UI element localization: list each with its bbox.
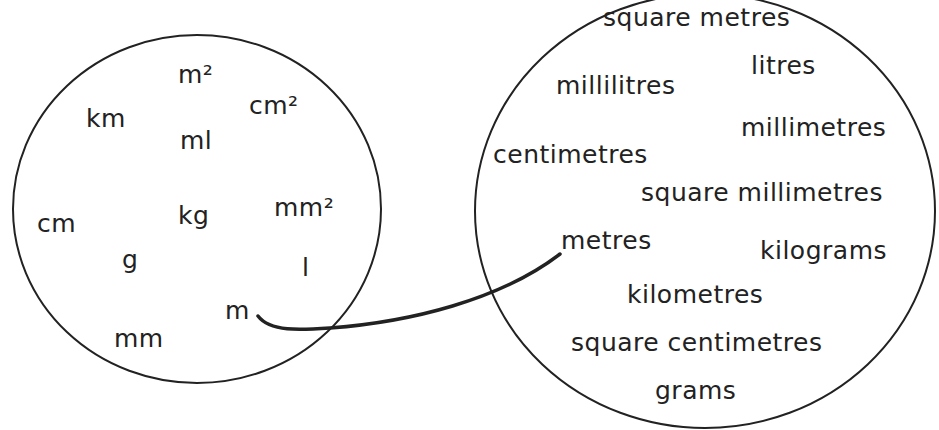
abbreviation-label[interactable]: ml <box>180 128 212 153</box>
unit-name-label[interactable]: kilograms <box>760 238 887 263</box>
abbreviation-label[interactable]: m <box>225 298 250 323</box>
abbreviation-label[interactable]: mm <box>114 326 164 351</box>
abbreviation-label[interactable]: cm² <box>249 93 299 118</box>
unit-name-label[interactable]: square centimetres <box>571 330 823 355</box>
abbreviation-label[interactable]: mm² <box>274 195 334 220</box>
unit-name-label[interactable]: square metres <box>603 5 790 30</box>
abbreviation-label[interactable]: l <box>302 255 309 280</box>
unit-names-set-circle <box>475 0 935 428</box>
abbreviation-label[interactable]: km <box>86 106 126 131</box>
unit-name-label[interactable]: metres <box>561 228 652 253</box>
unit-name-label[interactable]: millimetres <box>741 115 886 140</box>
unit-name-label[interactable]: litres <box>751 53 816 78</box>
unit-name-label[interactable]: square millimetres <box>641 180 883 205</box>
unit-name-label[interactable]: grams <box>655 378 736 403</box>
unit-name-label[interactable]: millilitres <box>556 73 675 98</box>
abbreviation-label[interactable]: g <box>122 247 138 272</box>
unit-name-label[interactable]: centimetres <box>493 142 648 167</box>
abbreviation-label[interactable]: m² <box>178 62 213 87</box>
unit-name-label[interactable]: kilometres <box>627 282 763 307</box>
abbreviation-label[interactable]: cm <box>37 211 76 236</box>
abbreviation-label[interactable]: kg <box>178 203 209 228</box>
